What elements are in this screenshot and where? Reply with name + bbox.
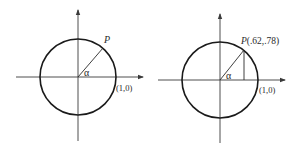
right-diagram: P(.62,.78) α (1,0) xyxy=(158,14,285,143)
unit-circle-figure: P α (1,0) P(.62,.78) α (1,0) xyxy=(0,0,295,149)
left-point-p-label: P xyxy=(103,34,110,45)
left-radius-to-p xyxy=(78,48,103,77)
left-angle-alpha-label: α xyxy=(84,67,90,78)
right-axis-point-label: (1,0) xyxy=(259,85,275,95)
right-angle-alpha-label: α xyxy=(226,70,232,81)
left-diagram: P α (1,0) xyxy=(16,10,143,141)
left-axis-point-label: (1,0) xyxy=(116,83,132,93)
right-point-p-label: P(.62,.78) xyxy=(240,36,279,47)
figure-svg: P α (1,0) P(.62,.78) α (1,0) xyxy=(0,0,295,149)
right-radius-to-p xyxy=(220,50,244,80)
